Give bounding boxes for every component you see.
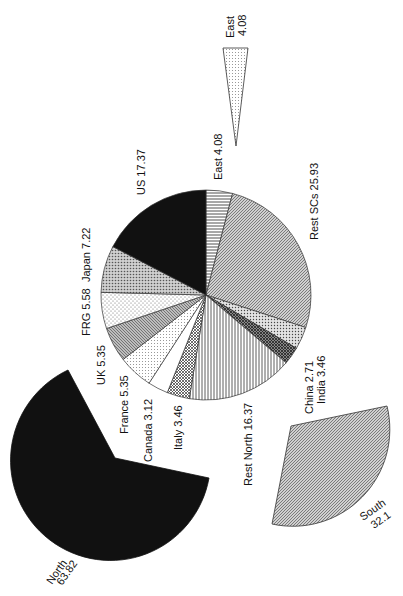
- label-us: US 17.37: [135, 149, 147, 195]
- label-rest-scs: Rest SCs 25.93: [308, 163, 320, 240]
- label-east: East 4.08: [212, 134, 224, 180]
- label-china: China 2.71: [303, 361, 315, 414]
- north-sector: [11, 370, 209, 560]
- label-east-region-value: 4.08: [236, 15, 248, 36]
- label-france: France 5.35: [118, 375, 130, 434]
- label-italy: Italy 3.46: [172, 405, 184, 450]
- east-sector: [223, 48, 248, 146]
- label-east-region-name: East: [224, 16, 236, 38]
- label-uk: UK 5.35: [95, 345, 107, 385]
- pie-chart-figure: East 4.08 Rest SCs 25.93 US 17.37 Japan …: [0, 0, 403, 596]
- label-canada: Canada 3.12: [142, 399, 154, 462]
- label-japan: Japan 7.22: [80, 228, 92, 282]
- label-rest-north: Rest North 16.37: [242, 403, 254, 486]
- main-pie: [101, 190, 311, 400]
- label-india: India 3.46: [315, 356, 327, 404]
- label-frg: FRG 5.58: [80, 288, 92, 336]
